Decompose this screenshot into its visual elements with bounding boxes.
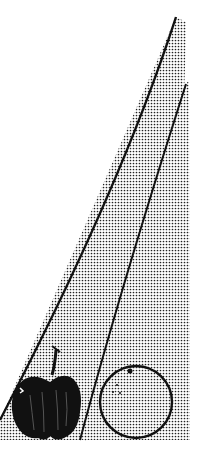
illustration — [0, 0, 202, 471]
